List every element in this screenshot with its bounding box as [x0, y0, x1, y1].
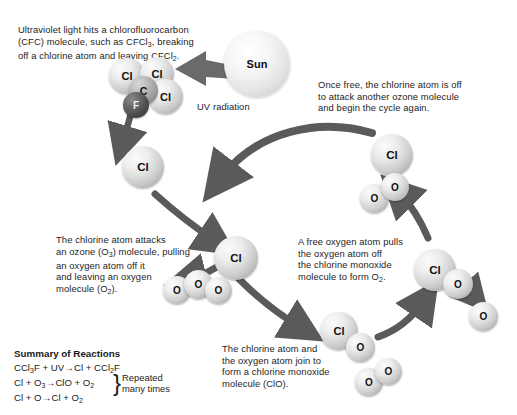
- arrow-right-to-top-cl: [400, 194, 428, 238]
- brace-glyph: }: [113, 371, 121, 395]
- repeated-note: } Repeated many times: [122, 372, 170, 395]
- diagram-canvas: Ultraviolet light hits a chlorofluorocar…: [0, 0, 517, 415]
- label-uv-radiation: UV radiation: [197, 101, 307, 113]
- bottom-clo-oxygen: O: [346, 333, 375, 362]
- central-chlorine-atom: Cl: [214, 236, 258, 280]
- caption-free-oxygen: A free oxygen atom pullsthe oxygen atom …: [298, 236, 426, 285]
- summary-of-reactions: Summary of Reactions CCl3F + UV→Cl + CCl…: [14, 348, 120, 407]
- arrow-clo-to-right: [378, 302, 423, 337]
- bottom-o2-oxygen-2: O: [375, 358, 402, 385]
- right-clo-oxygen: O: [443, 269, 473, 299]
- arrow-center-to-clo: [239, 279, 300, 327]
- caption-uv-cfc-text: Ultraviolet light hits a chlorofluorocar…: [18, 24, 194, 61]
- reaction-row-1: CCl3F + UV→Cl + CCl2F: [14, 362, 120, 377]
- ozone-oxygen-3: O: [205, 277, 232, 304]
- sun-sphere: Sun: [224, 31, 290, 97]
- summary-heading: Summary of Reactions: [14, 348, 120, 361]
- free-oxygen-atom: O: [469, 302, 498, 331]
- arrow-cycle-return-arc: [222, 127, 372, 177]
- reaction-row-3: Cl + O→Cl + O2: [14, 392, 120, 407]
- sun-label: Sun: [247, 58, 268, 70]
- top-right-chlorine-atom: Cl: [371, 134, 413, 176]
- caption-once-free: Once free, the chlorine atom is off to a…: [318, 79, 508, 114]
- top-right-o2-oxygen-2: O: [381, 173, 409, 201]
- free-chlorine-atom-left: Cl: [122, 146, 164, 188]
- repeated-note-text: Repeated many times: [122, 372, 170, 394]
- cfc-fluorine: F: [123, 92, 149, 118]
- reaction-row-2: Cl + O3→ClO + O2: [14, 377, 120, 392]
- arrow-cfc-to-cl: [123, 113, 131, 141]
